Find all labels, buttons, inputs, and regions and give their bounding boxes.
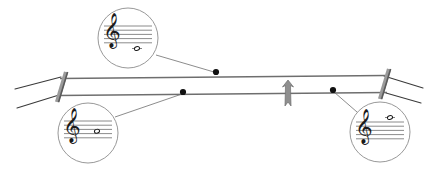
callout-left: 𝄞 — [58, 103, 118, 163]
callout-top: 𝄞 — [98, 8, 158, 68]
string-harmonics-figure: 𝄞𝄞𝄞 — [0, 0, 432, 171]
treble-clef: 𝄞 — [103, 12, 121, 49]
figure-root: 𝄞𝄞𝄞 String with nodes and corresponding … — [0, 0, 432, 171]
callout-right: 𝄞 — [350, 102, 410, 162]
treble-clef: 𝄞 — [355, 108, 373, 145]
node-upper-string — [213, 69, 219, 75]
treble-clef: 𝄞 — [63, 107, 81, 144]
node-lower-right — [330, 87, 336, 93]
node-lower-left — [180, 89, 186, 95]
